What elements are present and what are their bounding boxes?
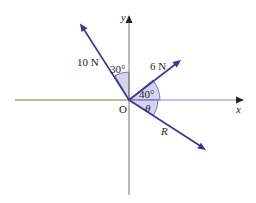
vector-R-arrowhead: [197, 143, 206, 150]
vector-10N-arrowhead: [80, 24, 88, 33]
force-diagram: y x O 10 N 6 N R 30° 40° θ: [0, 0, 256, 203]
angle-40-label: 40°: [139, 88, 154, 100]
origin-label: O: [119, 103, 127, 115]
y-axis-arrowhead: [126, 15, 133, 23]
angle-theta-label: θ: [145, 102, 151, 114]
resultant-label: R: [160, 125, 168, 137]
angle-30-label: 30°: [110, 63, 125, 75]
vector-R: [129, 100, 202, 147]
force-6N-label: 6 N: [150, 60, 166, 72]
x-axis-label: x: [235, 103, 241, 115]
y-axis-label: y: [120, 11, 126, 23]
force-10N-label: 10 N: [77, 56, 99, 68]
